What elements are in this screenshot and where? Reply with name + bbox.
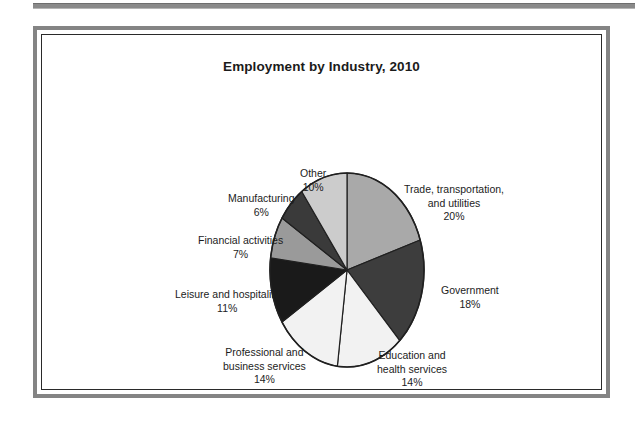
pie-label-other: Other 10% xyxy=(300,167,326,194)
pie-label-education-and-health-services: Education and health services 14% xyxy=(377,349,447,390)
pie-label-manufacturing: Manufacturing 6% xyxy=(228,192,295,219)
pie-label-line1: Other xyxy=(300,167,326,181)
pie-label-financial-activities: Financial activities 7% xyxy=(198,234,283,261)
pie-label-value: 11% xyxy=(175,302,279,316)
pie-label-value: 20% xyxy=(404,210,504,224)
top-divider-rule xyxy=(33,3,635,9)
pie-label-line1: Government xyxy=(441,284,499,298)
pie-label-value: 6% xyxy=(228,206,295,220)
pie-label-value: 18% xyxy=(441,298,499,312)
pie-label-trade-transportation-and-utilities: Trade, transportation, and utilities 20% xyxy=(404,183,504,224)
pie-label-value: 10% xyxy=(300,181,326,195)
pie-label-line1: Trade, transportation, xyxy=(404,183,504,197)
pie-label-line1: Education and xyxy=(377,349,447,363)
pie-label-line1: Leisure and hospitality xyxy=(175,288,279,302)
pie-label-line1: Financial activities xyxy=(198,234,283,248)
pie-label-line2: business services xyxy=(223,360,306,374)
pie-label-line1: Professional and xyxy=(223,346,306,360)
pie-label-government: Government 18% xyxy=(441,284,499,311)
chart-title: Employment by Industry, 2010 xyxy=(42,59,601,74)
figure-inner-border: Employment by Industry, 2010 Trade, tran… xyxy=(41,34,602,390)
figure-frame: Employment by Industry, 2010 Trade, tran… xyxy=(33,26,610,398)
pie-label-value: 14% xyxy=(223,373,306,387)
pie-label-value: 14% xyxy=(377,376,447,390)
pie-label-line1: Manufacturing xyxy=(228,192,295,206)
pie-label-line2: and utilities xyxy=(404,197,504,211)
pie-label-value: 7% xyxy=(198,248,283,262)
pie-label-professional-and-business-services: Professional and business services 14% xyxy=(223,346,306,387)
pie-label-leisure-and-hospitality: Leisure and hospitality 11% xyxy=(175,288,279,315)
pie-label-line2: health services xyxy=(377,363,447,377)
